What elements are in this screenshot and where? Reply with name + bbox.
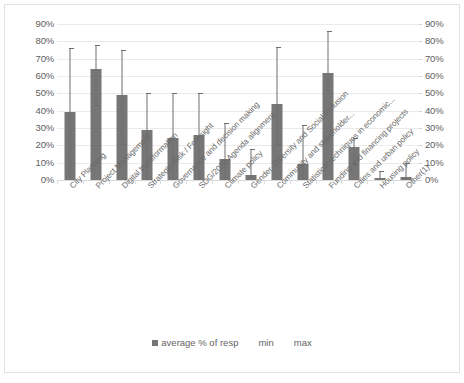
error-bar-line (121, 50, 122, 144)
y-axis-right-tick-80: 80% (425, 37, 443, 47)
legend-item-3[interactable]: max (291, 337, 312, 348)
error-bar-max-cap (224, 123, 229, 124)
y-axis-right-tickmark-80 (419, 41, 422, 42)
y-axis-left-tick-50: 50% (36, 89, 54, 99)
legend-item-1[interactable]: average % of resp (152, 337, 238, 348)
error-bar-line (69, 48, 70, 180)
y-axis-right-tick-20: 20% (425, 141, 443, 151)
y-axis-left-tick-10: 10% (36, 158, 54, 168)
y-axis-right-tickmark-70 (419, 59, 422, 60)
error-bar-max-cap (250, 149, 255, 150)
legend-label: min (258, 337, 273, 348)
chart-frame: 0%10%20%30%40%50%60%70%80%90% 0%10%20%30… (4, 4, 460, 373)
y-axis-left-tick-30: 30% (36, 123, 54, 133)
y-axis-right-tickmark-30 (419, 128, 422, 129)
y-axis-right-tick-70: 70% (425, 54, 443, 64)
y-axis-right-tick-60: 60% (425, 71, 443, 81)
y-axis-right-tick-0: 0% (425, 175, 438, 185)
chart-legend: average % of respminmax (5, 337, 459, 348)
y-axis-left-tick-40: 40% (36, 106, 54, 116)
error-bar-min-cap (95, 105, 100, 106)
y-axis-right-tickmark-20 (419, 145, 422, 146)
y-axis-right-tickmark-10 (419, 163, 422, 164)
error-bar-min-cap (276, 144, 281, 145)
plot-area-wrapper: 0%10%20%30%40%50%60%70%80%90% 0%10%20%30… (5, 5, 461, 305)
y-axis-right-tickmark-90 (419, 24, 422, 25)
bar-group[interactable] (57, 24, 83, 180)
y-axis-left: 0%10%20%30%40%50%60%70%80%90% (23, 5, 57, 180)
y-axis-left-tick-80: 80% (36, 37, 54, 47)
error-bar-max-cap (146, 93, 151, 94)
y-axis-left-tick-70: 70% (36, 54, 54, 64)
y-axis-left-tick-0: 0% (41, 175, 54, 185)
error-bar-max-cap (121, 50, 126, 51)
error-bar-max-cap (198, 93, 203, 94)
error-bar-max-cap (95, 45, 100, 46)
figure-caption (0, 376, 464, 383)
x-axis-category-labels: City PlanningProject ManagementDigital t… (57, 181, 419, 311)
error-bar-line (95, 45, 96, 106)
error-bar-max-cap (69, 48, 74, 49)
error-bar-line (276, 47, 277, 144)
y-axis-left-tick-20: 20% (36, 141, 54, 151)
error-bar-line (328, 31, 329, 93)
y-axis-right-tickmark-60 (419, 76, 422, 77)
y-axis-right-tickmark-40 (419, 111, 422, 112)
y-axis-right-tick-90: 90% (425, 19, 443, 29)
error-bar-min-cap (121, 144, 126, 145)
error-bar-max-cap (172, 93, 177, 94)
error-bar-max-cap (379, 171, 384, 172)
y-axis-left-tick-60: 60% (36, 71, 54, 81)
y-axis-right-tick-50: 50% (425, 89, 443, 99)
legend-label: average % of resp (161, 337, 238, 348)
y-axis-right: 0%10%20%30%40%50%60%70%80%90% (419, 5, 453, 180)
error-bar-min-cap (327, 93, 332, 94)
error-bar-line (380, 171, 381, 180)
legend-item-2[interactable]: min (255, 337, 273, 348)
error-bar-max-cap (327, 31, 332, 32)
y-axis-right-tick-40: 40% (425, 106, 443, 116)
error-bar-max-cap (276, 47, 281, 48)
y-axis-right-tickmark-50 (419, 93, 422, 94)
legend-label: max (294, 337, 312, 348)
legend-swatch-icon (152, 340, 158, 346)
y-axis-right-tick-30: 30% (425, 123, 443, 133)
y-axis-left-tick-90: 90% (36, 19, 54, 29)
